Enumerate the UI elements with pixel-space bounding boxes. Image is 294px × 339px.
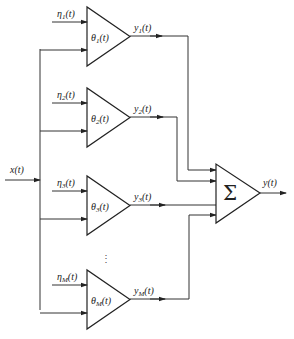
output-label: y3(t) bbox=[133, 191, 152, 204]
output-label: y2(t) bbox=[133, 103, 152, 116]
sigma-symbol: Σ bbox=[223, 181, 237, 205]
noise-label: η1(t) bbox=[57, 8, 76, 21]
noise-label: η3(t) bbox=[57, 177, 76, 190]
noise-label: ηM(t) bbox=[57, 271, 78, 284]
input-label: x(t) bbox=[9, 164, 25, 176]
route-y2 bbox=[130, 117, 216, 181]
block-diagram: x(t) η1(t)θ1(t)y1(t)η2(t)θ2(t)y2(t)η3(t)… bbox=[0, 0, 294, 339]
route-yM bbox=[130, 215, 216, 299]
output-label: y(t) bbox=[262, 177, 278, 189]
output-label: y1(t) bbox=[133, 22, 152, 35]
noise-label: η2(t) bbox=[57, 89, 76, 102]
output-label: yM(t) bbox=[133, 285, 154, 298]
ellipsis: ⋮ bbox=[101, 253, 111, 264]
